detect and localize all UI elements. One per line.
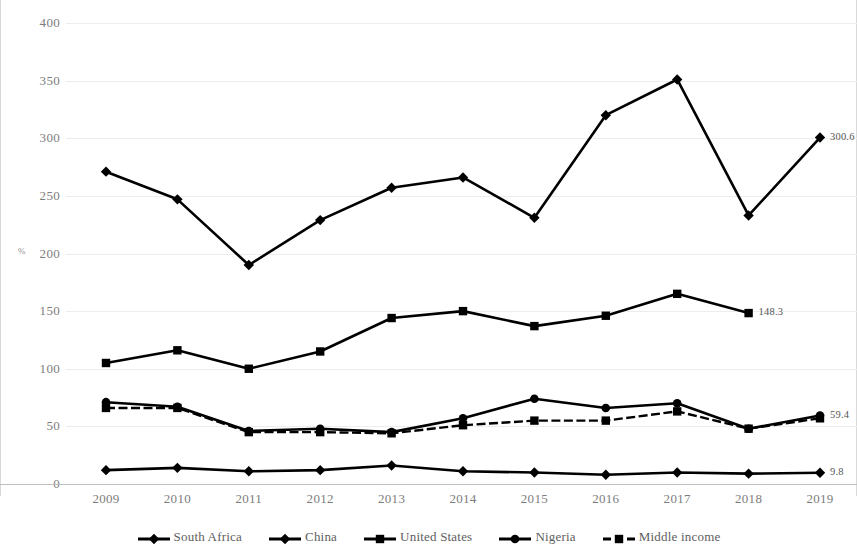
data-point-marker (102, 404, 110, 412)
series-south-africa (101, 74, 825, 270)
data-point-marker (530, 394, 539, 403)
data-label-south-africa: 300.6 (830, 131, 855, 142)
legend-item-middle-income[interactable]: Middle income (602, 529, 721, 545)
line-chart: 050100150200250300350400 % 2009201020112… (0, 0, 857, 556)
legend-marker-icon (498, 531, 532, 543)
legend-label: Middle income (639, 529, 721, 545)
data-point-marker (102, 359, 110, 367)
legend-item-nigeria[interactable]: Nigeria (498, 529, 575, 545)
data-point-marker (529, 467, 539, 477)
data-point-marker (672, 74, 682, 84)
data-series-layer (0, 0, 857, 556)
data-point-marker (601, 470, 611, 480)
data-point-marker (530, 322, 538, 330)
series-line (106, 294, 749, 369)
data-point-marker (459, 421, 467, 429)
legend-marker-icon (363, 531, 397, 543)
data-point-marker (245, 365, 253, 373)
data-point-marker (673, 399, 682, 408)
data-point-marker (673, 290, 681, 298)
legend-marker-icon (602, 531, 636, 543)
legend-marker-icon (268, 531, 302, 543)
data-label-china: 9.8 (830, 466, 844, 477)
data-point-marker (459, 307, 467, 315)
legend-item-south-africa[interactable]: South Africa (137, 529, 242, 545)
data-point-marker (744, 424, 752, 432)
data-point-marker (602, 312, 610, 320)
data-point-marker (173, 404, 181, 412)
data-point-marker (744, 309, 752, 317)
data-point-marker (101, 465, 111, 475)
data-point-marker (743, 468, 753, 478)
series-china (101, 460, 825, 480)
data-point-marker (387, 429, 395, 437)
data-point-marker (458, 466, 468, 476)
legend-item-united-states[interactable]: United States (363, 529, 472, 545)
data-point-marker (530, 416, 538, 424)
data-point-marker (386, 460, 396, 470)
legend-label: China (305, 529, 337, 545)
data-point-marker (672, 467, 682, 477)
data-point-marker (602, 416, 610, 424)
data-point-marker (386, 183, 396, 193)
data-point-marker (815, 468, 825, 478)
data-point-marker (673, 407, 681, 415)
data-point-marker (173, 346, 181, 354)
data-point-marker (316, 428, 324, 436)
legend-label: United States (400, 529, 472, 545)
data-point-marker (602, 404, 611, 413)
data-label-united-states: 148.3 (759, 306, 784, 317)
data-point-marker (816, 414, 824, 422)
legend-marker-icon (137, 531, 171, 543)
data-point-marker (245, 428, 253, 436)
legend-label: Nigeria (535, 529, 575, 545)
chart-legend: South AfricaChinaUnited StatesNigeriaMid… (0, 524, 857, 550)
legend-label: South Africa (174, 529, 242, 545)
data-point-marker (458, 172, 468, 182)
series-united-states (102, 290, 753, 373)
data-point-marker (244, 466, 254, 476)
series-nigeria (102, 394, 825, 436)
data-point-marker (315, 465, 325, 475)
data-point-marker (316, 347, 324, 355)
data-point-marker (172, 463, 182, 473)
legend-item-china[interactable]: China (268, 529, 337, 545)
data-point-marker (101, 166, 111, 176)
data-point-marker (387, 314, 395, 322)
data-label-nigeria: 59.4 (830, 409, 849, 420)
